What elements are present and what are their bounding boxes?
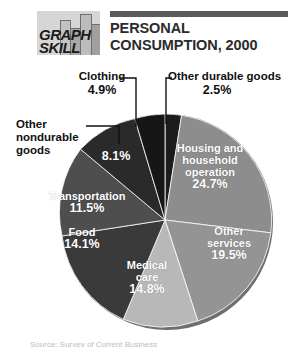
logo-text-skill: SKILL [39, 40, 80, 55]
callout-clothing-value: 4.9% [88, 83, 117, 97]
pie-label-medical-care-line1: Medical [116, 259, 178, 271]
pie-label-other-services-line1: Other [192, 225, 266, 237]
callout-other-nondurable-goods: Other nondurable goods [16, 118, 92, 157]
pie-label-medical-care: Medical care 14.8% [116, 259, 178, 297]
pie-label-medical-care-value: 14.8% [116, 283, 178, 297]
logo-bar-4 [91, 24, 100, 55]
pie-label-housing-line2: household [164, 154, 256, 166]
pie-label-other-services-value: 19.5% [192, 249, 266, 263]
callout-other-durable-goods-value: 2.5% [168, 83, 288, 97]
page-title: PERSONAL CONSUMPTION, 2000 [110, 20, 296, 54]
pie-label-other-nondurable-goods-value: 8.1% [86, 150, 146, 164]
source-note: Source: Survey of Current Business [30, 340, 298, 347]
header-divider-rule [110, 11, 288, 17]
callout-other-nondurable-goods-line3: goods [16, 144, 51, 156]
callout-other-nondurable-goods-line2: nondurable [16, 131, 79, 143]
pie-label-housing-value: 24.7% [164, 178, 256, 192]
pie-label-other-services: Other services 19.5% [192, 225, 266, 263]
pie-label-transportation: Transportation 11.5% [36, 190, 138, 216]
pie-chart: Clothing 4.9% Other durable goods 2.5% O… [0, 58, 298, 347]
callout-other-durable-goods: Other durable goods 2.5% [168, 70, 288, 97]
pie-label-other-nondurable-goods: 8.1% [86, 150, 146, 164]
graph-skill-logo: GRAPH SKILL [37, 11, 100, 55]
header: GRAPH SKILL PERSONAL CONSUMPTION, 2000 [0, 0, 298, 58]
pie-label-food-value: 14.1% [50, 238, 114, 252]
callout-clothing: Clothing 4.9% [66, 70, 138, 97]
pie-label-food: Food 14.1% [50, 226, 114, 252]
callout-other-nondurable-goods-line1: Other [16, 118, 47, 130]
callout-clothing-name: Clothing [79, 70, 126, 82]
pie-label-transportation-value: 11.5% [36, 202, 138, 216]
pie-label-housing-line1: Housing and [164, 142, 256, 154]
pie-label-housing-household-operation: Housing and household operation 24.7% [164, 142, 256, 192]
callout-other-durable-goods-name: Other durable goods [168, 70, 281, 82]
